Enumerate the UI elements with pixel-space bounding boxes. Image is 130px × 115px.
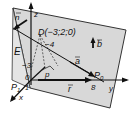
vector-n-label: n (15, 13, 20, 22)
vector-a-label: a (75, 56, 80, 66)
point-p-label: p (44, 70, 50, 79)
y-arrow-icon (122, 78, 129, 83)
vector-b-label: b (97, 39, 102, 49)
tick-1-label: 1 (25, 84, 29, 91)
tick-8-label: 8 (91, 83, 96, 92)
tick-neg3-label: −3 (22, 61, 32, 70)
point-d-label: D(−3;2;0) (38, 27, 76, 37)
x-axis-label: x (18, 93, 24, 102)
plane-label: E (14, 46, 21, 57)
z-axis-label: z (33, 10, 38, 19)
plane-diagram: n z E D(−3;2;0) −4 −3 b a p 0 P 0 8 y r … (0, 0, 130, 115)
origin-label: 0 (25, 73, 30, 82)
tick-neg4-label: −4 (45, 40, 55, 49)
z-arrow-icon (29, 2, 34, 9)
